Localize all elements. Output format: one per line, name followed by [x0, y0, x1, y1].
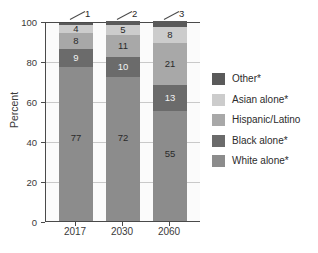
- legend-swatch-icon: [212, 114, 225, 126]
- stacked-bar-chart: Percent 100 80 60 40 20 0 4 8 9: [0, 0, 318, 253]
- bar-2060[interactable]: 8 21 13 55: [153, 21, 187, 221]
- callout-label-2060: 3: [179, 8, 184, 19]
- segment-value: 10: [118, 62, 129, 72]
- segment-2060-asian[interactable]: 8: [153, 27, 187, 43]
- legend-swatch-icon: [212, 94, 225, 106]
- segment-2030-hispanic[interactable]: 11: [106, 35, 140, 57]
- legend-item-white[interactable]: White alone*: [212, 151, 318, 172]
- segment-2060-white[interactable]: 55: [153, 111, 187, 221]
- segment-value: 21: [165, 59, 176, 69]
- y-tick-label-100: 100: [5, 17, 37, 28]
- legend-label: White alone*: [232, 156, 289, 166]
- segment-2060-hispanic[interactable]: 21: [153, 43, 187, 85]
- legend-label: Other*: [232, 74, 261, 84]
- y-tick-label-0: 0: [5, 217, 37, 228]
- segment-2030-asian[interactable]: 5: [106, 25, 140, 35]
- segment-value: 5: [120, 25, 125, 35]
- y-axis: Percent 100 80 60 40 20 0: [0, 0, 45, 253]
- legend-item-asian[interactable]: Asian alone*: [212, 90, 318, 111]
- segment-value: 8: [73, 36, 78, 46]
- legend-label: Hispanic/Latino: [232, 115, 300, 125]
- y-tick-mark-0: [41, 222, 45, 223]
- y-tick-label-60: 60: [5, 97, 37, 108]
- x-tick-label-2060: 2060: [141, 226, 197, 237]
- legend-item-hispanic[interactable]: Hispanic/Latino: [212, 110, 318, 131]
- callout-leader-2030: [117, 11, 133, 20]
- bar-2030[interactable]: 5 11 10 72: [106, 21, 140, 221]
- legend-item-other[interactable]: Other*: [212, 69, 318, 90]
- segment-value: 4: [73, 25, 78, 33]
- segment-2017-white[interactable]: 77: [59, 67, 93, 221]
- segment-value: 11: [118, 41, 128, 51]
- segment-value: 13: [165, 93, 176, 103]
- legend-swatch-icon: [212, 155, 225, 167]
- legend: Other* Asian alone* Hispanic/Latino Blac…: [212, 69, 318, 172]
- legend-swatch-icon: [212, 135, 225, 147]
- legend-label: Black alone*: [232, 136, 288, 146]
- segment-2060-black[interactable]: 13: [153, 85, 187, 111]
- y-tick-label-40: 40: [5, 137, 37, 148]
- y-axis-title: Percent: [8, 75, 20, 145]
- segment-2017-black[interactable]: 9: [59, 49, 93, 67]
- callout-leader-2017: [70, 11, 86, 20]
- y-tick-label-80: 80: [5, 57, 37, 68]
- bar-2017[interactable]: 4 8 9 77: [59, 23, 93, 221]
- y-tick-label-20: 20: [5, 177, 37, 188]
- plot-area: 4 8 9 77 5 11 10 72: [45, 22, 200, 222]
- legend-label: Asian alone*: [232, 95, 288, 105]
- segment-value: 77: [71, 133, 82, 143]
- legend-item-black[interactable]: Black alone*: [212, 131, 318, 152]
- segment-value: 55: [165, 149, 176, 159]
- segment-value: 8: [167, 30, 172, 40]
- callout-leader-2060: [164, 11, 180, 20]
- segment-2017-asian[interactable]: 4: [59, 25, 93, 33]
- legend-swatch-icon: [212, 73, 225, 85]
- callout-label-2030: 2: [132, 8, 137, 19]
- segment-value: 72: [118, 133, 129, 143]
- segment-2030-black[interactable]: 10: [106, 57, 140, 77]
- segment-value: 9: [73, 53, 78, 63]
- segment-2030-white[interactable]: 72: [106, 77, 140, 221]
- segment-2017-hispanic[interactable]: 8: [59, 33, 93, 49]
- callout-label-2017: 1: [85, 8, 90, 19]
